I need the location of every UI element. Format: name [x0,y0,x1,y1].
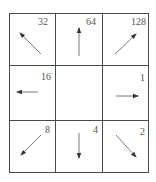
code-south: 4 [93,124,98,135]
code-east: 1 [140,72,145,83]
arrow-southwest-icon [21,135,41,155]
arrow-southeast-icon [116,135,136,157]
arrow-northeast-icon [115,34,136,54]
code-southwest: 8 [45,124,50,135]
arrow-northwest-icon [20,33,41,54]
code-northwest: 32 [38,16,48,27]
code-northeast: 128 [131,16,146,27]
d8-flow-direction-diagram: 32 64 128 16 1 8 4 2 [0,0,156,182]
code-southeast: 2 [140,126,145,137]
code-north: 64 [86,16,96,27]
code-west: 16 [41,71,51,82]
